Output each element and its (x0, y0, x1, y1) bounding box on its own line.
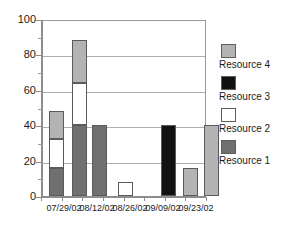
x-axis-tick (124, 197, 125, 201)
y-axis-tick (36, 91, 42, 92)
x-axis-tick (165, 197, 166, 201)
bar-segment[interactable] (204, 125, 219, 196)
bar-segment[interactable] (161, 125, 176, 196)
bar-segment[interactable] (72, 125, 87, 196)
legend-label: Resource 1 (219, 154, 297, 167)
y-axis-tick (36, 55, 42, 56)
y-axis-tick-label: 40 (4, 120, 36, 131)
legend-swatch (221, 140, 236, 154)
y-axis-tick-label: 100 (4, 14, 36, 25)
y-axis-tick (36, 20, 42, 21)
y-axis-tick-label: 0 (4, 191, 36, 202)
bar-segment[interactable] (72, 83, 87, 125)
bar-segment[interactable] (118, 182, 133, 196)
bar-segment[interactable] (92, 125, 107, 196)
y-axis-tick (36, 126, 42, 127)
x-axis-tick (41, 197, 42, 201)
legend-entry[interactable]: Resource 4 (219, 44, 297, 71)
legend-swatch (221, 76, 236, 90)
bar-stack[interactable] (183, 19, 198, 196)
legend-entry[interactable]: Resource 2 (219, 108, 297, 135)
y-axis-minor-tick (38, 38, 42, 39)
legend-label: Resource 4 (219, 58, 297, 71)
x-axis-tick-label: 09/09/02 (145, 203, 180, 213)
bar-segment[interactable] (49, 111, 64, 139)
y-axis-tick (36, 162, 42, 163)
legend-entry[interactable]: Resource 1 (219, 140, 297, 167)
x-axis-tick (144, 197, 145, 201)
chart-page: 020406080100 07/29/0208/12/0208/26/0209/… (0, 0, 299, 230)
bar-stack[interactable] (204, 19, 219, 196)
bar-stack[interactable] (72, 19, 87, 196)
y-axis-tick-label: 60 (4, 85, 36, 96)
y-axis-tick-label: 20 (4, 156, 36, 167)
x-axis-tick (82, 197, 83, 201)
x-axis-tick-label: 07/29/02 (46, 203, 81, 213)
x-axis-tick-label: 08/12/02 (79, 203, 114, 213)
bar-segment[interactable] (183, 168, 198, 196)
plot-area (41, 20, 206, 197)
legend-entry[interactable]: Resource 3 (219, 76, 297, 103)
y-axis-minor-tick (38, 179, 42, 180)
x-axis-tick-label: 08/26/02 (112, 203, 147, 213)
x-axis-tick (185, 197, 186, 201)
chart-legend: Resource 4Resource 3Resource 2Resource 1 (219, 44, 297, 172)
y-axis-minor-tick (38, 73, 42, 74)
bar-stack[interactable] (118, 19, 133, 196)
legend-swatch (221, 108, 236, 122)
bar-segment[interactable] (49, 168, 64, 196)
x-axis-tick-label: 09/23/02 (178, 203, 213, 213)
y-axis-tick-label: 80 (4, 49, 36, 60)
legend-label: Resource 2 (219, 122, 297, 135)
bar-stack[interactable] (92, 19, 107, 196)
x-axis-tick (206, 197, 207, 201)
legend-swatch (221, 44, 236, 58)
y-axis-minor-tick (38, 109, 42, 110)
bar-segment[interactable] (49, 139, 64, 167)
bar-stack[interactable] (49, 19, 64, 196)
bar-stack[interactable] (161, 19, 176, 196)
legend-label: Resource 3 (219, 90, 297, 103)
x-axis-tick (103, 197, 104, 201)
x-axis-tick (62, 197, 63, 201)
y-axis-minor-tick (38, 144, 42, 145)
bar-segment[interactable] (72, 40, 87, 82)
